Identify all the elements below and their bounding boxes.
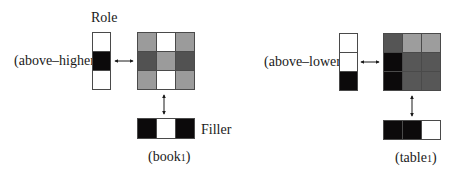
- binding-arrows: [0, 0, 453, 172]
